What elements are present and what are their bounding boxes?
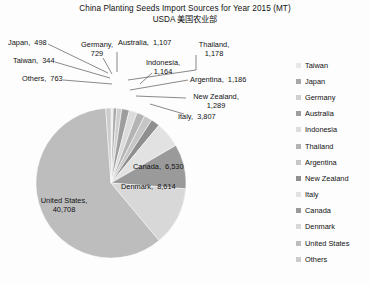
legend-swatch-icon	[296, 111, 301, 116]
chart-title-block: China Planting Seeds Import Sources for …	[0, 3, 370, 25]
legend-item[interactable]: Germany	[296, 89, 349, 105]
legend-swatch-icon	[296, 160, 301, 165]
legend-swatch-icon	[296, 144, 301, 149]
slice-label-denmark: Denmark, 8,614	[121, 182, 176, 191]
legend-item[interactable]: Thailand	[296, 138, 349, 154]
legend-item[interactable]: Indonesia	[296, 122, 349, 138]
legend-swatch-icon	[296, 192, 301, 197]
legend-swatch-icon	[296, 95, 301, 100]
legend-item-label: Australia	[305, 109, 334, 118]
legend-swatch-icon	[296, 241, 301, 246]
legend-item-label: Thailand	[305, 142, 333, 151]
chart-subtitle: USDA 美国农业部	[0, 14, 370, 25]
legend-item-label: Indonesia	[305, 125, 337, 134]
legend-item-label: New Zealand	[305, 174, 349, 183]
legend-item[interactable]: Japan	[296, 73, 349, 89]
slice-label-indonesia: Indonesia, 1,164	[143, 58, 183, 76]
chart-canvas: China Planting Seeds Import Sources for …	[0, 0, 370, 284]
legend-item[interactable]: United States	[296, 235, 349, 251]
slice-label-canada: Canada, 6,530	[133, 162, 184, 171]
legend-swatch-icon	[296, 176, 301, 181]
legend-item-label: Taiwan	[305, 61, 328, 70]
legend-item-label: Japan	[305, 77, 325, 86]
slice-label-new-zealand: New Zealand, 1,289	[188, 92, 244, 110]
slice-label-australia: Australia, 1,107	[118, 38, 171, 47]
chart-legend: TaiwanJapanGermanyAustraliaIndonesiaThai…	[296, 57, 349, 267]
legend-item[interactable]: Argentina	[296, 154, 349, 170]
legend-item[interactable]: Taiwan	[296, 57, 349, 73]
slice-label-taiwan: Taiwan, 344	[13, 56, 55, 65]
legend-item[interactable]: Australia	[296, 106, 349, 122]
legend-item-label: United States	[305, 239, 349, 248]
slice-label-italy: Italy, 3,807	[178, 112, 216, 121]
legend-item[interactable]: New Zealand	[296, 170, 349, 186]
legend-item-label: Argentina	[305, 158, 337, 167]
legend-item[interactable]: Others	[296, 251, 349, 267]
legend-item-label: Others	[305, 255, 327, 264]
slice-label-others: Others, 763	[22, 74, 63, 83]
legend-item[interactable]: Canada	[296, 203, 349, 219]
legend-item[interactable]: Denmark	[296, 219, 349, 235]
legend-item-label: Germany	[305, 93, 335, 102]
legend-item-label: Canada	[305, 206, 331, 215]
legend-item[interactable]: Italy	[296, 187, 349, 203]
chart-title: China Planting Seeds Import Sources for …	[0, 3, 370, 14]
legend-item-label: Denmark	[305, 222, 335, 231]
legend-swatch-icon	[296, 208, 301, 213]
legend-swatch-icon	[296, 224, 301, 229]
legend-item-label: Italy	[305, 190, 319, 199]
slice-label-argentina: Argentina, 1,186	[190, 75, 246, 84]
legend-swatch-icon	[296, 257, 301, 262]
legend-swatch-icon	[296, 127, 301, 132]
slice-label-germany: Germany, 729	[76, 40, 118, 58]
slice-label-japan: Japan, 498	[8, 38, 47, 47]
legend-swatch-icon	[296, 79, 301, 84]
legend-swatch-icon	[296, 63, 301, 68]
slice-label-thailand: Thailand, 1,178	[194, 40, 234, 58]
slice-label-united-states: United States, 40,708	[33, 196, 95, 214]
